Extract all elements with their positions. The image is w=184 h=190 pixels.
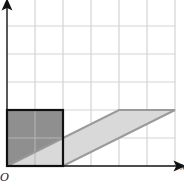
y-axis-arrow-icon (3, 0, 11, 9)
origin-label: O (0, 171, 9, 184)
x-axis-label: x (180, 160, 184, 173)
shear-diagram: O x (0, 0, 184, 190)
